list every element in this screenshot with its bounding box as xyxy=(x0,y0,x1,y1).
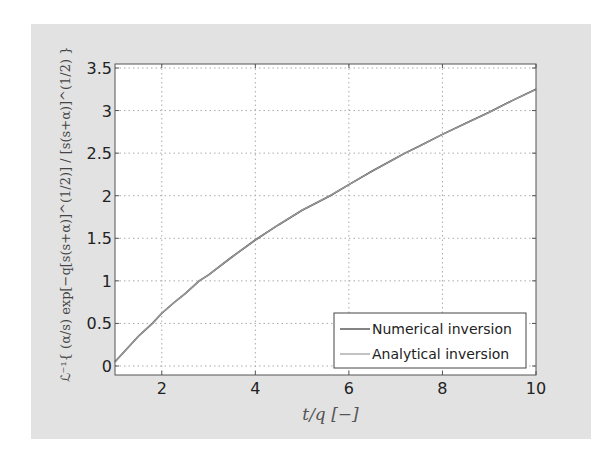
y-axis-label: ℒ⁻¹{ (α/s) exp[−q[s(s+α)]^(1/2)] / [s(s+… xyxy=(58,47,73,383)
x-tick-label: 2 xyxy=(157,379,167,398)
y-tick-label: 3.5 xyxy=(87,59,112,78)
y-tick-label: 0 xyxy=(102,357,112,376)
y-tick-label: 1 xyxy=(102,272,112,291)
legend-label-analytical: Analytical inversion xyxy=(372,346,509,362)
y-tick-label: 1.5 xyxy=(87,229,112,248)
x-tick-label: 6 xyxy=(344,379,354,398)
y-tick-label: 2.5 xyxy=(87,144,112,163)
x-axis-label: t/q [−] xyxy=(302,404,359,424)
x-tick-label: 4 xyxy=(250,379,260,398)
y-tick-label: 2 xyxy=(102,187,112,206)
legend: Numerical inversion Analytical inversion xyxy=(334,313,526,368)
y-tick-label: 3 xyxy=(102,102,112,121)
y-tick-label: 0.5 xyxy=(87,314,112,333)
chart: 24681000.511.522.533.5 t/q [−] ℒ⁻¹{ (α/s… xyxy=(0,0,615,458)
x-tick-label: 8 xyxy=(437,379,447,398)
legend-label-numerical: Numerical inversion xyxy=(372,321,512,337)
x-tick-label: 10 xyxy=(526,379,546,398)
